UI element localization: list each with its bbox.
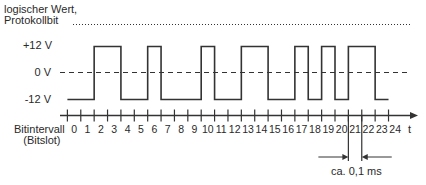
slot-label: 18 <box>309 124 321 135</box>
slot-label: 4 <box>125 124 131 135</box>
slot-label: 21 <box>349 124 361 135</box>
marker-arrow-left-head <box>342 154 348 160</box>
x-axis-title: Bitintervall (Bitslot) <box>14 124 65 146</box>
slot-label: 19 <box>322 124 334 135</box>
bit-duration-label: ca. 0,1 ms <box>331 166 382 177</box>
slot-label: 0 <box>71 124 77 135</box>
slot-label: 15 <box>269 124 281 135</box>
level-zero-label: 0 V <box>0 67 51 78</box>
level-high-label: +12 V <box>0 40 52 51</box>
x-axis-title-line2: (Bitslot) <box>14 135 65 146</box>
slot-label: 9 <box>192 124 198 135</box>
time-axis-arrowhead <box>410 112 418 119</box>
slot-label: 24 <box>389 124 401 135</box>
slot-label: 16 <box>282 124 294 135</box>
rs232-bit-timing-diagram <box>0 0 426 185</box>
slot-label: 14 <box>256 124 268 135</box>
y-axis-title: logischer Wert, Protokollbit <box>4 4 77 26</box>
slot-label: 11 <box>216 124 227 135</box>
slot-label: 13 <box>242 124 254 135</box>
slot-label: 12 <box>229 124 241 135</box>
slot-label: 10 <box>202 124 214 135</box>
slot-label: 6 <box>151 124 157 135</box>
level-low-label: -12 V <box>0 94 51 105</box>
slot-label: 7 <box>165 124 171 135</box>
x-axis-symbol: t <box>408 124 411 135</box>
slot-label: 17 <box>296 124 308 135</box>
slot-label: 3 <box>111 124 117 135</box>
slot-label: 8 <box>178 124 184 135</box>
y-axis-title-line2: Protokollbit <box>4 15 77 26</box>
slot-label: 2 <box>98 124 104 135</box>
slot-label: 23 <box>376 124 388 135</box>
slot-label: 22 <box>363 124 375 135</box>
slot-label: 5 <box>138 124 144 135</box>
slot-label: 1 <box>85 124 91 135</box>
slot-label: 20 <box>336 124 348 135</box>
marker-arrow-right-head <box>362 154 368 160</box>
